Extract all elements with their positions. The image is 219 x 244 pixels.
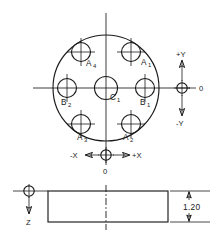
- hole-a3-label: A: [77, 133, 83, 142]
- engineering-drawing: C 1 A 1 A 4: [0, 0, 219, 244]
- hole-a4-label: A: [86, 59, 92, 68]
- thickness-dimension-label: 1.20: [183, 202, 201, 212]
- y-axis-indicator: 0 +Y -Y: [174, 50, 203, 128]
- hole-b2-label: B: [61, 98, 67, 107]
- hole-a4-group: A 4: [67, 38, 97, 69]
- technical-drawing-canvas: C 1 A 1 A 4: [0, 0, 219, 244]
- x-axis-negative-label: -X: [70, 151, 78, 160]
- hole-a3-group: A 3: [67, 110, 95, 143]
- hole-a2-subscript: 2: [130, 137, 133, 143]
- hole-b1-label: B: [140, 98, 146, 107]
- thickness-dimension: 1.20: [170, 191, 210, 222]
- hole-a1-subscript: 1: [148, 62, 151, 68]
- y-axis-negative-label: -Y: [176, 119, 184, 128]
- hole-c1-subscript: 1: [117, 97, 120, 103]
- side-view-body-rect: [48, 191, 168, 222]
- hole-b2-subscript: 2: [68, 102, 71, 108]
- hole-a2-label: A: [123, 133, 129, 142]
- x-axis-positive-label: +X: [132, 151, 142, 160]
- hole-c1-group: C 1: [95, 77, 121, 104]
- y-axis-origin-label: 0: [199, 84, 203, 93]
- hole-b1-subscript: 1: [147, 102, 150, 108]
- side-view: [48, 185, 168, 230]
- z-axis-label: Z: [26, 218, 31, 227]
- y-axis-positive-label: +Y: [176, 50, 186, 59]
- hole-b1-group: B 1: [136, 74, 155, 108]
- face-view: C 1 A 1 A 4: [33, 13, 190, 165]
- x-axis-indicator: +X -X 0: [70, 147, 142, 176]
- hole-c1-label: C: [110, 93, 116, 102]
- hole-a2-group: A 2: [117, 110, 145, 143]
- x-axis-origin-label: 0: [103, 167, 107, 176]
- hole-a1-label: A: [141, 58, 147, 67]
- hole-a4-subscript: 4: [93, 63, 97, 69]
- hole-b2-group: B 2: [58, 74, 77, 108]
- z-axis-indicator: Z: [13, 184, 48, 227]
